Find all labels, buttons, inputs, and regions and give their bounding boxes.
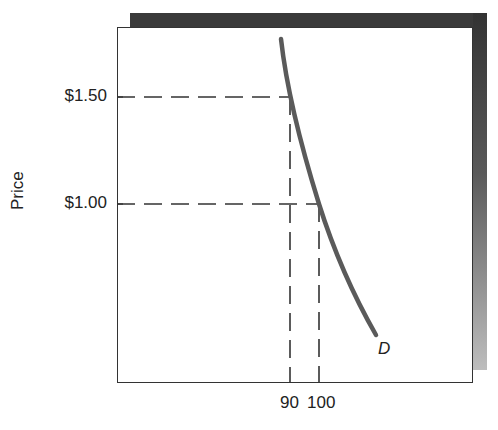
x-tick-label-100: 100: [307, 393, 335, 413]
y-tick-label-150: $1.50: [12, 86, 107, 106]
demand-curve: [281, 39, 376, 335]
chart-svg: [0, 0, 498, 430]
y-axis-label: Price: [8, 171, 28, 210]
curve-label-d: D: [378, 339, 390, 359]
x-tick-label-90: 90: [280, 393, 299, 413]
